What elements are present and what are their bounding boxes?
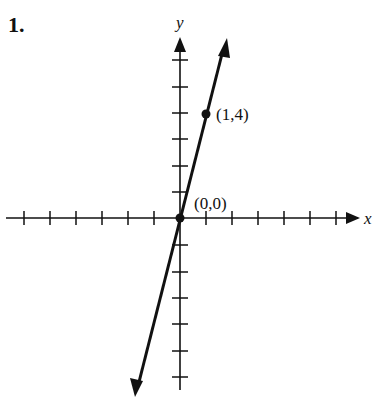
line-arrow-top-icon xyxy=(218,38,230,58)
y-axis-label: y xyxy=(174,13,184,32)
coordinate-plane: x y (0,0) (1,4) xyxy=(0,0,381,414)
point-1-4-label: (1,4) xyxy=(216,105,249,124)
point-1-4 xyxy=(202,110,211,119)
y-axis-arrow-icon xyxy=(174,37,186,52)
line-arrow-bottom-icon xyxy=(130,378,143,397)
x-axis-label: x xyxy=(363,209,372,228)
x-axis-arrow-icon xyxy=(346,212,360,224)
point-origin xyxy=(176,214,185,223)
x-axis: x xyxy=(6,209,372,228)
point-origin-label: (0,0) xyxy=(194,194,227,213)
